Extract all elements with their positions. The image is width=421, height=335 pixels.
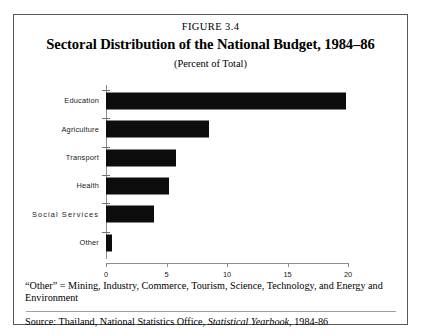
bar: [106, 121, 209, 138]
y-axis-tick: [102, 175, 110, 176]
x-axis-tick-label: 20: [344, 270, 352, 279]
x-axis-tick: [167, 263, 168, 267]
bar: [106, 93, 346, 110]
x-axis-tick: [227, 263, 228, 267]
bar-track: [106, 115, 407, 143]
bar-category-label: Agriculture: [14, 126, 106, 133]
bar-track: [106, 200, 407, 228]
x-axis-tick-label: 10: [223, 270, 231, 279]
y-axis-tick: [102, 147, 110, 148]
bar-row: Transport: [14, 144, 407, 172]
bar: [106, 178, 169, 195]
footnote-block: “Other” = Mining, Industry, Commerce, To…: [14, 280, 407, 305]
bar-category-label: Education: [14, 97, 106, 104]
bar-track: [106, 87, 407, 115]
bar-category-label: Health: [14, 182, 106, 189]
source-prefix: Source: Thailand, National Statistics Of…: [25, 316, 208, 327]
footnote-text: “Other” = Mining, Industry, Commerce, To…: [25, 280, 396, 305]
y-axis-tick: [102, 203, 110, 204]
x-axis-tick-label: 5: [164, 270, 168, 279]
y-axis-tick: [102, 90, 110, 91]
bar-row: Health: [14, 172, 407, 200]
figure-page: FIGURE 3.4 Sectoral Distribution of the …: [0, 0, 421, 335]
figure-number: FIGURE 3.4: [14, 21, 407, 32]
bar-row: Other: [14, 228, 407, 256]
x-axis-tick: [106, 263, 107, 267]
bar-category-label: Other: [14, 239, 106, 246]
x-axis-tick-label: 0: [104, 270, 108, 279]
bar-row: Education: [14, 87, 407, 115]
bar: [106, 149, 176, 166]
note-divider: [26, 311, 396, 312]
bar-track: [106, 144, 407, 172]
bar-row: Social Services: [14, 200, 407, 228]
figure-frame: FIGURE 3.4 Sectoral Distribution of the …: [13, 14, 408, 325]
x-axis-tick: [288, 263, 289, 267]
bar-row: Agriculture: [14, 115, 407, 143]
source-publication: Statistical Yearbook: [208, 316, 289, 327]
x-axis-tick-label: 15: [283, 270, 291, 279]
bar-track: [106, 228, 407, 256]
figure-title: Sectoral Distribution of the National Bu…: [14, 36, 407, 53]
source-suffix: , 1984-86: [289, 316, 328, 327]
figure-subtitle: (Percent of Total): [14, 58, 407, 69]
bar-track: [106, 172, 407, 200]
bar: [106, 206, 154, 223]
bar-category-label: Social Services: [14, 211, 106, 218]
bar-category-label: Transport: [14, 154, 106, 161]
bar-chart: EducationAgricultureTransportHealthSocia…: [14, 81, 407, 277]
bar: [106, 234, 112, 251]
x-axis-tick: [348, 263, 349, 267]
bar-rows: EducationAgricultureTransportHealthSocia…: [14, 87, 407, 257]
source-line: Source: Thailand, National Statistics Of…: [14, 316, 407, 329]
y-axis-tick: [102, 232, 110, 233]
y-axis-tick: [102, 118, 110, 119]
